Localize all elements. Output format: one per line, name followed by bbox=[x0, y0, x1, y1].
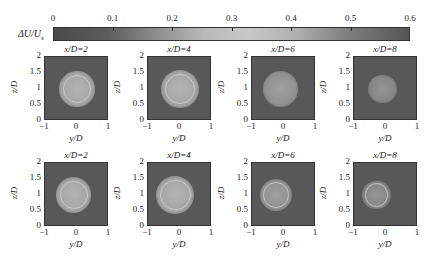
y-tick-label: 1 bbox=[124, 82, 144, 92]
colorbar-tick-label: 0.6 bbox=[404, 13, 415, 23]
x-tick-label: 0 bbox=[281, 121, 286, 131]
heatmap-panel bbox=[44, 162, 108, 226]
panel-title: x/D=8 bbox=[373, 150, 397, 160]
x-tick-label: 0 bbox=[74, 121, 79, 131]
wake-region bbox=[263, 71, 298, 106]
x-tick-label: 0 bbox=[74, 227, 79, 237]
x-tick-label: −1 bbox=[39, 227, 49, 237]
y-tick-label: 1.5 bbox=[228, 172, 248, 182]
y-axis-label: z/D bbox=[112, 187, 122, 200]
panel-title: x/D=8 bbox=[373, 44, 397, 54]
panel-title: x/D=4 bbox=[167, 150, 191, 160]
x-tick-label: −1 bbox=[348, 227, 358, 237]
y-tick-label: 2 bbox=[124, 156, 144, 166]
wake-ring bbox=[365, 183, 388, 206]
colorbar-label-sub: s bbox=[41, 34, 44, 42]
panel-title: x/D=6 bbox=[271, 150, 295, 160]
colorbar-tick-label: 0.3 bbox=[226, 13, 237, 23]
x-tick-label: −1 bbox=[142, 121, 152, 131]
y-tick-label: 1 bbox=[228, 188, 248, 198]
y-axis-label: z/D bbox=[9, 81, 19, 94]
y-tick-label: 2 bbox=[330, 156, 350, 166]
x-tick-label: −1 bbox=[142, 227, 152, 237]
y-tick-label: 0 bbox=[228, 220, 248, 230]
x-tick-label: 0 bbox=[383, 121, 388, 131]
heatmap-panel bbox=[147, 162, 211, 226]
y-tick-label: 2 bbox=[21, 50, 41, 60]
y-tick-label: 0 bbox=[124, 114, 144, 124]
wake-ring bbox=[263, 182, 289, 208]
heatmap-panel bbox=[251, 162, 315, 226]
y-tick-label: 0 bbox=[124, 220, 144, 230]
heatmap-panel bbox=[44, 56, 108, 120]
y-tick-label: 1.5 bbox=[330, 172, 350, 182]
y-axis-label: z/D bbox=[216, 187, 226, 200]
colorbar-tick-label: 0.2 bbox=[166, 13, 177, 23]
colorbar-tick-label: 0.4 bbox=[285, 13, 296, 23]
y-tick-label: 1 bbox=[124, 188, 144, 198]
x-tick-label: −1 bbox=[246, 227, 256, 237]
heatmap-panel bbox=[353, 56, 417, 120]
x-tick-label: 1 bbox=[313, 227, 318, 237]
y-tick-label: 1.5 bbox=[228, 66, 248, 76]
y-tick-label: 1.5 bbox=[21, 172, 41, 182]
y-tick-label: 1.5 bbox=[21, 66, 41, 76]
y-tick-label: 0.5 bbox=[330, 204, 350, 214]
y-tick-label: 0 bbox=[330, 114, 350, 124]
colorbar-tick-label: 0.5 bbox=[345, 13, 356, 23]
colorbar-tick bbox=[351, 27, 352, 31]
x-tick-label: 0 bbox=[383, 227, 388, 237]
x-tick-label: 1 bbox=[415, 227, 420, 237]
x-tick-label: 0 bbox=[177, 121, 182, 131]
colorbar-tick bbox=[172, 27, 173, 31]
y-tick-label: 1 bbox=[330, 188, 350, 198]
x-axis-label: y/D bbox=[173, 239, 186, 249]
x-tick-label: 1 bbox=[106, 121, 111, 131]
x-tick-label: 0 bbox=[177, 227, 182, 237]
colorbar-label: ΔU/Us bbox=[18, 28, 44, 42]
y-tick-label: 0.5 bbox=[21, 204, 41, 214]
wake-ring bbox=[60, 181, 88, 209]
x-tick-label: 1 bbox=[106, 227, 111, 237]
y-axis-label: z/D bbox=[318, 187, 328, 200]
panel-title: x/D=4 bbox=[167, 44, 191, 54]
y-tick-label: 0.5 bbox=[124, 98, 144, 108]
x-axis-label: y/D bbox=[173, 133, 186, 143]
y-tick-label: 0.5 bbox=[330, 98, 350, 108]
y-tick-label: 2 bbox=[124, 50, 144, 60]
y-tick-label: 1.5 bbox=[124, 66, 144, 76]
colorbar-tick bbox=[113, 27, 114, 31]
wake-region bbox=[368, 75, 397, 104]
x-tick-label: 1 bbox=[415, 121, 420, 131]
colorbar-tick bbox=[232, 27, 233, 31]
y-axis-label: z/D bbox=[112, 81, 122, 94]
x-axis-label: y/D bbox=[70, 239, 83, 249]
panel-title: x/D=2 bbox=[64, 44, 88, 54]
x-axis-label: y/D bbox=[277, 133, 290, 143]
y-tick-label: 1 bbox=[228, 82, 248, 92]
wake-ring bbox=[160, 180, 191, 211]
x-axis-label: y/D bbox=[70, 133, 83, 143]
y-tick-label: 2 bbox=[21, 156, 41, 166]
y-tick-label: 1 bbox=[21, 188, 41, 198]
x-tick-label: −1 bbox=[348, 121, 358, 131]
colorbar-tick-label: 0.1 bbox=[107, 13, 118, 23]
x-tick-label: −1 bbox=[246, 121, 256, 131]
colorbar-tick bbox=[291, 27, 292, 31]
y-tick-label: 0.5 bbox=[228, 98, 248, 108]
colorbar-label-text: ΔU/U bbox=[18, 28, 41, 39]
colorbar-tick-label: 0 bbox=[51, 13, 56, 23]
y-tick-label: 1.5 bbox=[330, 66, 350, 76]
panel-title: x/D=2 bbox=[64, 150, 88, 160]
y-axis-label: z/D bbox=[9, 187, 19, 200]
heatmap-panel bbox=[251, 56, 315, 120]
y-tick-label: 0.5 bbox=[124, 204, 144, 214]
y-tick-label: 2 bbox=[228, 156, 248, 166]
y-tick-label: 1.5 bbox=[124, 172, 144, 182]
y-tick-label: 1 bbox=[21, 82, 41, 92]
y-tick-label: 0.5 bbox=[21, 98, 41, 108]
x-tick-label: 1 bbox=[313, 121, 318, 131]
x-tick-label: 0 bbox=[281, 227, 286, 237]
y-tick-label: 1 bbox=[330, 82, 350, 92]
x-axis-label: y/D bbox=[379, 133, 392, 143]
